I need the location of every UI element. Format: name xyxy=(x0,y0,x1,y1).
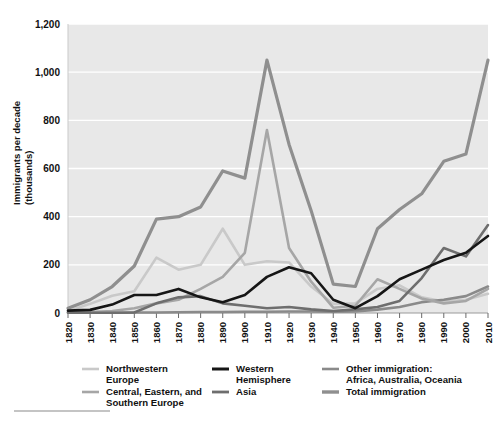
x-tick-label: 1900 xyxy=(239,322,250,343)
x-tick-label: 1960 xyxy=(372,322,383,343)
x-tick-label: 1830 xyxy=(85,322,96,343)
x-tick-label: 2010 xyxy=(483,322,494,343)
immigration-line-chart: 02004006008001,0001,200 Immigrants per d… xyxy=(0,0,498,423)
y-tick-label: 1,000 xyxy=(35,67,60,78)
chart-canvas: 02004006008001,0001,200 Immigrants per d… xyxy=(0,0,498,423)
x-tick-label: 1940 xyxy=(328,322,339,343)
x-tick-label: 2000 xyxy=(460,322,471,343)
x-tick-label: 1860 xyxy=(151,322,162,343)
legend-label-other-immigration: Other immigration: xyxy=(346,363,432,374)
legend-label-northwestern-europe: Northwestern xyxy=(106,363,168,374)
y-tick-label: 200 xyxy=(43,259,60,270)
x-tick-label: 1840 xyxy=(107,322,118,343)
x-tick-label: 1930 xyxy=(306,322,317,343)
legend-label-western-hemisphere: Western xyxy=(236,363,274,374)
y-tick-label: 600 xyxy=(43,163,60,174)
x-tick-label: 1920 xyxy=(284,322,295,343)
legend-label-other-immigration-line2: Africa, Australia, Oceania xyxy=(346,374,463,385)
y-tick-label: 400 xyxy=(43,211,60,222)
legend-label-western-hemisphere-line2: Hemisphere xyxy=(236,374,291,385)
x-tick-label: 1970 xyxy=(394,322,405,343)
x-tick-label: 1880 xyxy=(195,322,206,343)
x-tick-label: 1890 xyxy=(217,322,228,343)
x-tick-label: 1990 xyxy=(438,322,449,343)
legend-label-central-eastern-southern-europe-line2: Southern Europe xyxy=(106,397,184,408)
x-tick-label: 1870 xyxy=(173,322,184,343)
y-tick-label: 0 xyxy=(54,308,60,319)
legend-label-asia: Asia xyxy=(236,386,257,397)
x-tick-label: 1910 xyxy=(262,322,273,343)
legend-label-total-immigration: Total immigration xyxy=(346,386,426,397)
y-axis-label-line2: (thousands) xyxy=(23,151,34,205)
x-tick-label: 1820 xyxy=(63,322,74,343)
y-axis-label-line1: Immigrants per decade xyxy=(11,101,22,205)
y-tick-label: 800 xyxy=(43,115,60,126)
x-tick-label: 1950 xyxy=(350,322,361,343)
x-tick-label: 1850 xyxy=(129,322,140,343)
y-tick-label: 1,200 xyxy=(35,19,60,30)
x-tick-label: 1980 xyxy=(416,322,427,343)
legend-label-northwestern-europe-line2: Europe xyxy=(106,374,139,385)
legend-label-central-eastern-southern-europe: Central, Eastern, and xyxy=(106,386,202,397)
